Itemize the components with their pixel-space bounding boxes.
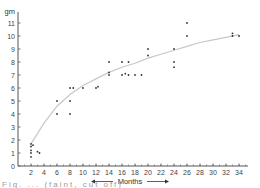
x-tick-label: 6 [55, 169, 59, 176]
axis-labels: 2468101214161820222426283032340123456789… [5, 7, 243, 186]
data-point [95, 87, 97, 89]
y-tick-label: 8 [11, 59, 15, 66]
y-tick-label: 3 [11, 124, 15, 131]
data-point [56, 113, 58, 115]
x-tick-label: 10 [79, 169, 87, 176]
x-tick-label: 20 [144, 169, 152, 176]
x-tick-label: 18 [131, 169, 139, 176]
data-point [97, 86, 99, 88]
x-tick-label: 30 [209, 169, 217, 176]
y-tick-label: 5 [11, 98, 15, 105]
data-point [173, 61, 175, 63]
figure-caption: Fig. ... (faint, cut off) [2, 180, 258, 188]
data-point [69, 87, 71, 89]
data-point [232, 35, 234, 37]
data-point [141, 74, 143, 76]
y-tick-label: 10 [7, 33, 15, 40]
data-point [147, 48, 149, 50]
data-point [108, 74, 110, 76]
data-point [186, 22, 188, 24]
data-point [238, 35, 240, 37]
fitted-curve-line [31, 35, 239, 144]
data-point [147, 55, 149, 57]
y-tick-label: 11 [8, 20, 15, 27]
data-point [232, 33, 234, 35]
x-tick-label: 2 [29, 169, 33, 176]
data-point [128, 74, 130, 76]
y-axis-title: gm [5, 7, 15, 16]
axes [18, 12, 248, 166]
growth-scatter-chart: 2468101214161820222426283032340123456789… [0, 0, 260, 188]
data-point [30, 156, 32, 158]
x-tick-label: 22 [157, 169, 165, 176]
data-point [134, 74, 136, 76]
data-point [173, 48, 175, 50]
data-point [82, 87, 84, 89]
data-point [108, 61, 110, 63]
x-tick-label: 14 [105, 169, 113, 176]
data-point [30, 146, 32, 148]
x-tick-label: 34 [235, 169, 243, 176]
data-point [186, 35, 188, 37]
y-tick-label: 2 [11, 137, 15, 144]
data-point [37, 151, 39, 153]
x-tick-label: 16 [118, 169, 126, 176]
data-point [30, 150, 32, 152]
data-point [173, 66, 175, 68]
data-point [30, 152, 32, 154]
y-tick-label: 9 [11, 46, 15, 53]
data-point [69, 100, 71, 102]
x-tick-label: 12 [92, 169, 100, 176]
y-tick-label: 6 [11, 85, 15, 92]
data-point [124, 73, 126, 75]
data-points [30, 22, 240, 158]
x-tick-label: 8 [68, 169, 72, 176]
x-tick-label: 26 [183, 169, 191, 176]
data-point [69, 113, 71, 115]
y-tick-label: 7 [11, 72, 15, 79]
data-point [39, 152, 41, 154]
data-point [121, 74, 123, 76]
fitted-curve [31, 35, 239, 144]
x-tick-label: 32 [222, 169, 230, 176]
data-point [121, 61, 123, 63]
data-point [108, 72, 110, 74]
data-point [30, 143, 32, 145]
x-tick-label: 28 [196, 169, 204, 176]
data-point [72, 87, 74, 89]
y-tick-label: 1 [11, 150, 15, 157]
y-tick-label: 0 [11, 163, 15, 170]
y-tick-label: 4 [11, 111, 15, 118]
x-tick-label: 4 [42, 169, 46, 176]
x-tick-label: 24 [170, 169, 178, 176]
data-point [32, 144, 34, 146]
data-point [128, 61, 130, 63]
data-point [56, 100, 58, 102]
